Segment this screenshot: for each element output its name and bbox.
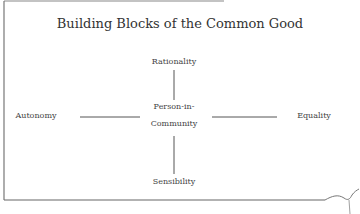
node-center-line2: Community bbox=[124, 119, 224, 128]
node-sensibility: Sensibility bbox=[134, 177, 214, 186]
node-center-line1: Person-in- bbox=[124, 102, 224, 111]
node-equality: Equality bbox=[282, 111, 346, 120]
node-autonomy: Autonomy bbox=[4, 111, 68, 120]
diagram-title: Building Blocks of the Common Good bbox=[0, 16, 360, 31]
node-rationality: Rationality bbox=[134, 57, 214, 66]
